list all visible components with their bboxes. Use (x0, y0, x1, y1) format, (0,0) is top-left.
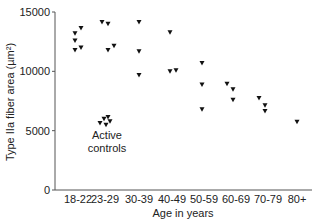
x-tick-label: 70-79 (254, 193, 282, 205)
triangle-down-marker (200, 61, 205, 65)
x-tick-label: 80+ (288, 193, 307, 205)
x-axis-label: Age in years (152, 207, 214, 219)
triangle-down-marker (98, 121, 103, 126)
triangle-down-marker (174, 68, 179, 73)
triangle-down-marker (168, 69, 173, 74)
x-tick-label: 18-22 (64, 193, 92, 205)
y-tick-label: 10000 (19, 65, 50, 77)
triangle-down-marker (106, 115, 111, 120)
triangle-down-marker (106, 48, 111, 53)
x-tick-label: 30-39 (125, 193, 153, 205)
triangle-down-marker (263, 103, 268, 108)
triangle-down-marker (100, 20, 105, 25)
triangle-down-marker (112, 44, 117, 49)
triangle-down-marker (168, 30, 173, 34)
y-tick-label: 5000 (26, 125, 50, 137)
triangle-down-marker (73, 38, 78, 43)
triangle-down-marker (295, 120, 300, 125)
triangle-down-marker (225, 82, 230, 87)
triangle-down-marker (79, 26, 84, 31)
x-tick-label: 40-49 (158, 193, 186, 205)
triangle-down-marker (137, 20, 142, 25)
triangle-down-marker (104, 123, 109, 128)
data-points (73, 20, 300, 127)
active-controls-annotation: Activecontrols (88, 129, 127, 154)
triangle-down-marker (79, 46, 84, 51)
x-tick-label: 60-69 (222, 193, 250, 205)
x-axis: 18-2223-2930-3940-4950-5960-6970-7980+ (55, 190, 312, 205)
triangle-down-marker (200, 82, 205, 87)
y-tick-label: 0 (44, 184, 50, 196)
triangle-down-marker (73, 31, 78, 36)
triangle-down-marker (200, 107, 205, 112)
triangle-down-marker (137, 73, 142, 78)
x-tick-label: 23-29 (91, 193, 119, 205)
triangle-down-marker (231, 98, 236, 103)
triangle-down-marker (231, 87, 236, 92)
x-tick-label: 50-59 (190, 193, 218, 205)
y-axis: 050001000015000 (19, 6, 55, 196)
scatter-chart: 050001000015000 18-2223-2930-3940-4950-5… (0, 0, 321, 224)
triangle-down-marker (137, 49, 142, 54)
triangle-down-marker (106, 22, 111, 27)
triangle-down-marker (257, 96, 262, 101)
triangle-down-marker (102, 117, 107, 122)
y-axis-label: Type IIa fiber area (µm²) (4, 43, 16, 161)
triangle-down-marker (263, 109, 268, 114)
y-tick-label: 15000 (19, 6, 50, 18)
triangle-down-marker (73, 48, 78, 53)
